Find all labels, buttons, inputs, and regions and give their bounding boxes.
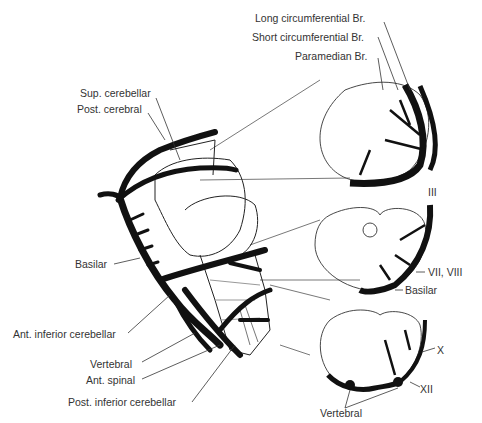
label-nerve-x: X	[437, 344, 444, 356]
label-paramedian-branch: Paramedian Br.	[295, 50, 367, 62]
label-nerve-iii: III	[428, 186, 437, 198]
label-ant-inferior-cerebellar: Ant. inferior cerebellar	[13, 328, 116, 340]
label-vertebral: Vertebral	[90, 358, 132, 370]
diagram-illustration	[0, 0, 482, 423]
label-post-inferior-cerebellar: Post. inferior cerebellar	[68, 396, 176, 408]
label-post-cerebral: Post. cerebral	[77, 103, 142, 115]
label-long-circumferential-branch: Long circumferential Br.	[255, 12, 365, 24]
label-nerve-vii-viii: VII, VIII	[428, 266, 462, 278]
label-vertebral-section: Vertebral	[320, 407, 362, 419]
projection-lines	[200, 80, 360, 355]
label-basilar-section: Basilar	[405, 284, 437, 296]
label-nerve-xii: XII	[420, 383, 433, 395]
arteries	[100, 132, 270, 355]
label-ant-spinal: Ant. spinal	[86, 374, 135, 386]
label-sup-cerebellar: Sup. cerebellar	[80, 87, 151, 99]
label-short-circumferential-branch: Short circumferential Br.	[252, 31, 364, 43]
medulla-cross-section	[320, 310, 425, 390]
midbrain-cross-section	[320, 82, 435, 183]
pons-cross-section	[315, 205, 430, 292]
label-basilar: Basilar	[75, 258, 107, 270]
